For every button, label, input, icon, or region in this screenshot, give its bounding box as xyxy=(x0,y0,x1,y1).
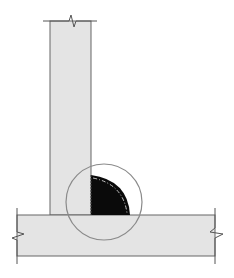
t-joint-weld-diagram xyxy=(0,0,234,278)
horizontal-plate xyxy=(17,215,215,256)
vertical-plate xyxy=(50,21,91,215)
fillet-weld xyxy=(91,175,130,215)
